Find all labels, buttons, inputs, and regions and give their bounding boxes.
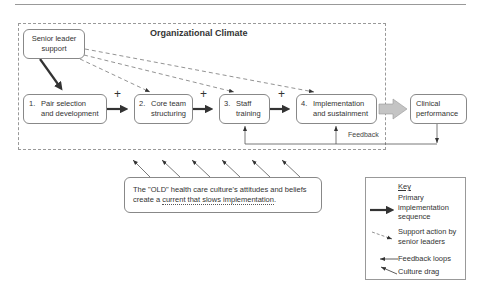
- clinical-performance-box: Clinical performance: [410, 94, 467, 124]
- step-3-box: 3. Staff training: [219, 94, 270, 124]
- step-4-line2: and sustainment: [313, 109, 368, 119]
- step-4-number: 4.: [301, 99, 313, 119]
- step-1-line1: Pair selection: [41, 99, 99, 109]
- culture-text-line1: The "OLD" health care culture's attitude…: [133, 185, 307, 195]
- senior-leader-support-box: Senior leader support: [23, 29, 85, 59]
- step-3-line2: training: [236, 109, 261, 119]
- senior-leader-line1: Senior leader: [32, 34, 77, 44]
- plus-sign-3: +: [278, 87, 285, 101]
- step-4-box: 4. Implementation and sustainment: [296, 94, 377, 124]
- key-item-primary: Primary implementation sequence: [398, 193, 449, 222]
- step-2-box: 2. Core team structuring: [134, 94, 193, 124]
- step-2-number: 2.: [139, 99, 151, 119]
- culture-current-phrase: current that slows implementation: [162, 195, 274, 205]
- step-2-line1: Core team: [151, 99, 186, 109]
- step-3-number: 3.: [224, 99, 236, 119]
- step-1-box: 1. Pair selection and development: [23, 94, 107, 124]
- plus-sign-1: +: [114, 87, 121, 101]
- support-arrow-step3: [84, 55, 234, 92]
- plus-sign-2: +: [200, 87, 207, 101]
- support-arrow-step4: [85, 49, 314, 92]
- key-item-support: Support action by senior leaders: [398, 227, 456, 246]
- step-4-line1: Implementation: [313, 99, 368, 109]
- step-1-number: 1.: [29, 99, 41, 119]
- key-item-feedback: Feedback loops: [398, 254, 451, 264]
- key-item-culture-drag: Culture drag: [398, 267, 439, 277]
- outcome-block-arrow: [379, 99, 407, 119]
- key-title: Key: [398, 182, 411, 192]
- primary-arrow-senior-to-step1: [40, 59, 60, 87]
- feedback-label: Feedback: [348, 131, 379, 138]
- old-culture-box: The "OLD" health care culture's attitude…: [124, 177, 322, 213]
- step-3-line1: Staff: [236, 99, 261, 109]
- step-1-line2: and development: [41, 109, 99, 119]
- senior-leader-line2: support: [32, 44, 77, 54]
- culture-text-line2: create a current that slows implementati…: [133, 195, 307, 205]
- outcome-line1: Clinical: [416, 99, 458, 109]
- culture-drag-arrows: [133, 160, 300, 177]
- outcome-line2: performance: [416, 109, 458, 119]
- step-2-line2: structuring: [151, 109, 186, 119]
